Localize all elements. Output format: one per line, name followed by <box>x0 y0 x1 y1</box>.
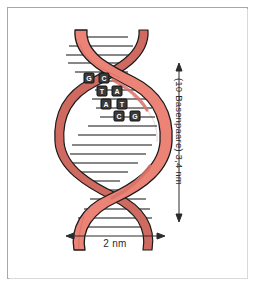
base-label-4-right: G <box>132 113 138 120</box>
base-pair-4: C G <box>114 111 140 121</box>
base-label-3-right: T <box>120 101 125 108</box>
base-label-2-left: T <box>100 88 105 95</box>
base-label-2-right: A <box>114 88 119 95</box>
figure-root: G C T A A T C <box>0 0 256 287</box>
vertical-dimension-label: (10 Basenpaare) 3,4 nm <box>171 78 187 206</box>
base-pair-2: T A <box>97 86 122 96</box>
base-label-3-left: A <box>103 101 108 108</box>
base-label-1-left: G <box>86 75 92 82</box>
base-label-1-right: C <box>101 75 106 82</box>
horizontal-dimension-label: 2 nm <box>60 238 170 249</box>
base-label-4-left: C <box>116 113 121 120</box>
